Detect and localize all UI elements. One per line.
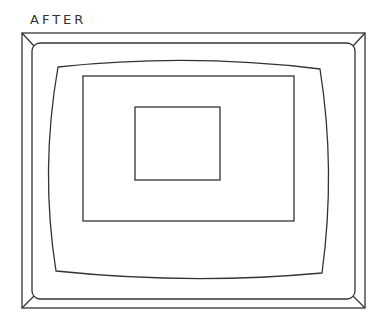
bevel-bottom-right bbox=[353, 296, 365, 308]
bevel-bottom-left bbox=[22, 296, 34, 308]
bevel-top-right bbox=[353, 33, 365, 46]
bevel-top-left bbox=[22, 33, 34, 46]
inner-rectangle bbox=[135, 107, 220, 180]
crt-screen-diagram bbox=[0, 0, 379, 327]
inner-bezel bbox=[32, 43, 355, 299]
outer-bezel bbox=[22, 33, 365, 308]
middle-rectangle bbox=[83, 76, 294, 221]
curved-screen bbox=[48, 60, 328, 278]
